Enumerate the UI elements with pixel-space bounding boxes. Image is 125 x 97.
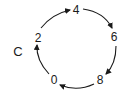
node-4: 4 bbox=[73, 4, 80, 16]
arrow-0-to-2 bbox=[37, 45, 49, 74]
arrow-4-to-6 bbox=[83, 9, 112, 28]
cycle-diagram: C 2 4 6 8 0 bbox=[0, 0, 125, 97]
node-8: 8 bbox=[97, 74, 104, 86]
node-6: 6 bbox=[111, 31, 118, 43]
arrow-8-to-0 bbox=[60, 84, 94, 88]
arrow-2-to-4 bbox=[41, 10, 70, 28]
arrow-6-to-8 bbox=[106, 46, 116, 74]
cycle-label: C bbox=[13, 46, 22, 58]
node-2: 2 bbox=[35, 32, 42, 44]
node-0: 0 bbox=[51, 74, 58, 86]
